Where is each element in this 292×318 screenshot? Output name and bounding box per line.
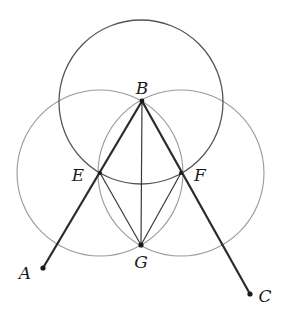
- point-c: [247, 291, 252, 296]
- point-f: [179, 171, 183, 175]
- label-a: A: [17, 263, 31, 283]
- label-f: F: [193, 165, 207, 185]
- geometry-diagram: A B C E F G: [0, 0, 292, 318]
- segment-bg: [141, 101, 142, 245]
- point-a: [40, 265, 45, 270]
- label-c: C: [258, 286, 271, 306]
- ray-bc: [142, 101, 250, 294]
- point-g: [138, 242, 143, 247]
- label-b: B: [135, 78, 149, 98]
- point-b: [140, 99, 145, 104]
- point-e: [98, 171, 102, 175]
- ray-ba: [43, 101, 142, 268]
- label-e: E: [71, 165, 85, 185]
- label-g: G: [134, 252, 148, 272]
